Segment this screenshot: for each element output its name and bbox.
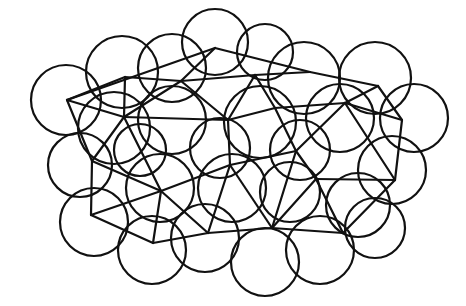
circle <box>358 136 426 204</box>
mesh-edge <box>215 48 310 72</box>
mesh-edge <box>124 117 228 120</box>
mesh-edges-layer <box>67 48 402 243</box>
mesh-edge <box>124 77 125 117</box>
circle <box>345 198 405 258</box>
circles-layer <box>31 9 448 296</box>
mesh-edge <box>208 165 230 233</box>
circle <box>326 173 390 237</box>
mesh-edge <box>208 228 272 233</box>
mesh-edge <box>124 81 181 117</box>
mesh-edge <box>255 72 310 75</box>
mesh-edge <box>345 86 378 103</box>
mesh-edge <box>316 179 395 180</box>
mesh-edge <box>91 161 92 215</box>
diagram-svg <box>0 0 466 306</box>
mesh-edge <box>343 180 395 233</box>
mesh-edge <box>125 77 181 81</box>
mesh-edge <box>316 179 343 233</box>
mesh-edge <box>67 100 92 161</box>
circle <box>270 120 330 180</box>
mesh-edge <box>296 151 316 179</box>
mesh-edge <box>153 233 208 243</box>
mesh-edge <box>161 191 208 233</box>
mesh-edge <box>228 120 230 165</box>
circle <box>339 42 411 114</box>
circle <box>118 216 186 284</box>
circle <box>380 84 448 152</box>
circle-packing-triangulation-diagram <box>0 0 466 306</box>
mesh-edge <box>91 215 153 243</box>
